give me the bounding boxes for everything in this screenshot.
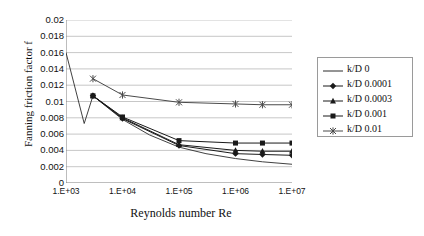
legend-label: k/D 0.001 — [347, 108, 387, 119]
data-point-marker — [331, 113, 336, 118]
legend-key-icon — [322, 123, 344, 135]
legend-key-icon — [322, 78, 344, 90]
data-point-marker — [177, 138, 182, 143]
chart-legend: k/D 0k/D 0.0001k/D 0.0003k/D 0.001k/D 0.… — [317, 57, 413, 137]
x-tick-label: 1.E+03 — [43, 186, 89, 196]
legend-label: k/D 0 — [347, 63, 370, 74]
legend-label: k/D 0.0001 — [347, 78, 392, 89]
y-tick-label: 0.012 — [20, 79, 64, 90]
x-tick-label: 1.E+06 — [213, 186, 259, 196]
legend-label: k/D 0.0003 — [347, 93, 392, 104]
y-tick-label: 0.002 — [20, 161, 64, 172]
y-axis-tick-labels: 0.020.0180.0160.0140.0120.010.0080.0060.… — [18, 0, 64, 236]
x-tick-label: 1.E+04 — [100, 186, 146, 196]
y-tick-label: 0.018 — [20, 30, 64, 41]
chart-svg — [66, 20, 292, 183]
data-point-marker — [330, 82, 336, 88]
y-tick-label: 0.006 — [20, 128, 64, 139]
y-tick-label: 0.01 — [20, 96, 64, 107]
data-point-marker — [90, 93, 95, 98]
data-point-marker — [290, 141, 293, 146]
y-tick-label: 0.008 — [20, 112, 64, 123]
data-point-marker — [233, 141, 238, 146]
data-point-marker — [260, 141, 265, 146]
plot-area — [66, 20, 292, 183]
y-tick-label: 0.014 — [20, 63, 64, 74]
chart-container: Fanning friction factor f 0.020.0180.016… — [0, 0, 424, 236]
legend-item-1[interactable]: k/D 0.0001 — [322, 76, 408, 91]
x-tick-label: 1.E+05 — [156, 186, 202, 196]
y-tick-label: 0.02 — [20, 14, 64, 25]
legend-key-icon — [322, 93, 344, 105]
legend-item-0[interactable]: k/D 0 — [322, 61, 408, 76]
x-tick-label: 1.E+07 — [269, 186, 315, 196]
x-axis-title: Reynolds number Re — [66, 206, 296, 221]
legend-label: k/D 0.01 — [347, 123, 382, 134]
legend-key-icon — [322, 63, 344, 75]
data-point-marker — [90, 75, 96, 82]
y-tick-label: 0.016 — [20, 47, 64, 58]
legend-key-icon — [322, 108, 344, 120]
data-point-marker — [120, 114, 125, 119]
legend-item-3[interactable]: k/D 0.001 — [322, 106, 408, 121]
legend-item-2[interactable]: k/D 0.0003 — [322, 91, 408, 106]
legend-item-4[interactable]: k/D 0.01 — [322, 121, 408, 136]
y-tick-label: 0.004 — [20, 144, 64, 155]
